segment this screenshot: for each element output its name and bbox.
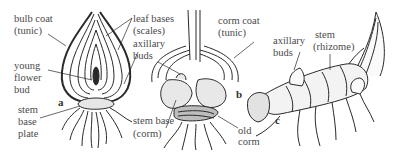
label-corm-coat: corm coat — [218, 15, 260, 26]
panel-letter-c: c — [275, 114, 280, 126]
label-stem-base-corm: (corm) — [133, 128, 162, 139]
label-rhizome-axillary: axillary — [273, 35, 305, 46]
bulb-drawing — [40, 12, 138, 148]
label-old-corm: corm — [238, 136, 260, 147]
label-flower: flower — [14, 72, 41, 83]
diagram-artwork — [0, 0, 402, 155]
label-leaf-bases: leaf bases — [133, 13, 174, 24]
label-stem-base: stem base — [133, 115, 174, 126]
label-axillary: axillary — [133, 38, 165, 49]
label-stem-rhizome: (rhizome) — [313, 41, 354, 52]
label-bulb-coat: bulb coat — [14, 13, 53, 24]
plant-storage-organs-diagram: bulb coat (tunic) young flower bud stem … — [0, 0, 402, 155]
label-stem: stem — [18, 104, 38, 115]
label-old: old — [238, 125, 251, 136]
panel-letter-a: a — [58, 96, 64, 108]
panel-letter-b: b — [236, 88, 242, 100]
label-base: base — [18, 116, 37, 127]
label-axillary-buds: buds — [133, 50, 153, 61]
label-plate: plate — [18, 128, 38, 139]
label-corm-coat-tunic: (tunic) — [218, 27, 246, 38]
label-bulb-coat-tunic: (tunic) — [14, 25, 42, 36]
label-young: young — [14, 60, 40, 71]
label-leaf-bases-scales: (scales) — [133, 25, 165, 36]
label-stem: stem — [315, 29, 335, 40]
label-bud: bud — [14, 84, 30, 95]
label-rhizome-axillary-buds: buds — [273, 47, 293, 58]
